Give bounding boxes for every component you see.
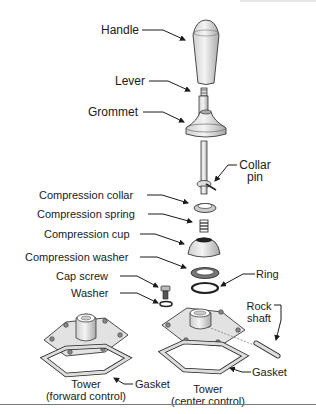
compression-cup-part — [188, 238, 220, 258]
compression-washer-part — [191, 268, 219, 279]
label-rock-shaft-line2: shaft — [242, 312, 276, 324]
label-handle: Handle — [101, 24, 139, 36]
label-washer: Washer — [71, 287, 109, 299]
label-cap-screw: Cap screw — [56, 270, 108, 282]
lever-shaft-part — [197, 141, 216, 194]
label-ring: Ring — [256, 268, 279, 280]
label-compression-spring: Compression spring — [37, 208, 135, 220]
grommet-part — [186, 110, 226, 137]
label-tower-forward-line2: (forward control) — [36, 390, 136, 402]
bottom-divider — [0, 404, 316, 405]
label-gasket-center: Gasket — [252, 366, 287, 378]
cap-screw-part — [161, 286, 170, 299]
handle-part — [193, 20, 219, 85]
label-grommet: Grommet — [88, 106, 138, 118]
washer-part — [160, 302, 172, 307]
exploded-parts-illustration — [0, 0, 316, 414]
label-lever: Lever — [115, 75, 145, 87]
compression-spring-part — [200, 220, 208, 232]
label-rock-shaft-line1: Rock — [242, 300, 276, 312]
label-compression-washer: Compression washer — [25, 251, 128, 263]
label-rock-shaft: Rock shaft — [242, 300, 276, 324]
label-tower-forward-line1: Tower — [36, 378, 136, 390]
compression-collar-part — [194, 204, 216, 213]
label-collar-pin-line2: pin — [238, 171, 272, 183]
tower-center-part — [162, 308, 254, 346]
label-tower-center-line2: (center control) — [158, 395, 258, 407]
label-compression-cup: Compression cup — [44, 228, 130, 240]
gasket-center-part — [162, 342, 245, 372]
label-compression-collar: Compression collar — [39, 189, 133, 201]
label-collar-pin: Collar pin — [238, 159, 272, 183]
label-tower-center-line1: Tower — [158, 383, 258, 395]
ring-part — [192, 283, 218, 293]
label-tower-forward: Tower (forward control) — [36, 378, 136, 402]
rock-shaft-part — [256, 343, 278, 356]
